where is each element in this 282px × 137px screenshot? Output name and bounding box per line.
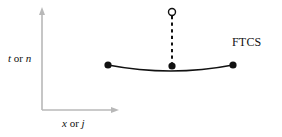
figure-canvas: t or n x or j FTCS xyxy=(0,0,282,137)
stencil-node-left xyxy=(104,61,111,68)
stencil-node-right xyxy=(229,61,236,68)
x-axis xyxy=(42,107,119,113)
x-axis-label-var-j: j xyxy=(82,117,85,129)
x-axis-label: x or j xyxy=(62,118,85,129)
stencil-node-unknown-open xyxy=(169,9,176,16)
y-axis-label: t or n xyxy=(8,53,31,64)
y-axis xyxy=(39,7,45,110)
scheme-name-label: FTCS xyxy=(232,36,261,48)
x-axis-arrowhead-icon xyxy=(111,107,119,113)
y-axis-arrowhead-icon xyxy=(39,7,45,15)
x-axis-label-conjunction: or xyxy=(67,117,82,129)
stencil-node-center xyxy=(168,62,175,69)
y-axis-label-var-n: n xyxy=(26,52,32,64)
ftcs-stencil-figure xyxy=(0,0,282,137)
y-axis-label-conjunction: or xyxy=(11,52,26,64)
